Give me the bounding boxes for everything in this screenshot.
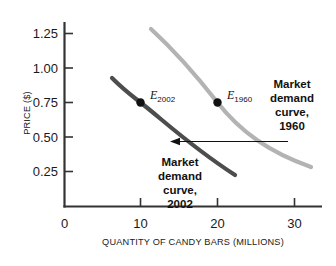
equilibrium-point-1960: E1960 <box>213 88 252 107</box>
annotation-1960-line-1: Market <box>273 78 310 90</box>
shift-arrow-head <box>170 138 180 145</box>
x-axis-tick-labels: 0 10 20 30 <box>61 216 302 231</box>
equilibrium-dot-2002 <box>136 98 144 106</box>
annotation-1960-line-4: 1960 <box>279 120 305 132</box>
x-axis-title: QUANTITY OF CANDY BARS (MILLIONS) <box>102 237 284 247</box>
equilibrium-label-2002: E2002 <box>149 88 176 104</box>
annotation-1960: Market demand curve, 1960 <box>270 78 314 132</box>
equilibrium-label-1960-sub: 1960 <box>234 95 252 104</box>
x-axis-ticks <box>141 198 295 207</box>
y-axis-title: PRICE ($) <box>22 91 32 135</box>
y-tick-label-075: 0.75 <box>33 95 58 110</box>
x-tick-label-30: 30 <box>287 216 301 231</box>
y-axis-ticks <box>65 34 74 172</box>
y-tick-label-100: 1.00 <box>33 61 58 76</box>
annotation-2002-line-4: 2002 <box>167 198 193 210</box>
annotation-1960-line-2: demand <box>270 92 314 104</box>
annotation-2002-line-1: Market <box>161 156 198 168</box>
annotation-2002-line-2: demand <box>158 170 202 182</box>
annotation-2002-line-3: curve, <box>163 184 197 196</box>
y-tick-label-125: 1.25 <box>33 26 58 41</box>
equilibrium-label-1960: E1960 <box>226 88 253 104</box>
annotation-2002: Market demand curve, 2002 <box>158 156 202 210</box>
demand-curve-chart: 1.25 1.00 0.75 0.50 0.25 0 10 20 30 QUAN… <box>0 0 336 266</box>
y-tick-label-050: 0.50 <box>33 130 58 145</box>
y-tick-label-025: 0.25 <box>33 164 58 179</box>
equilibrium-dot-1960 <box>213 98 221 106</box>
equilibrium-label-2002-sub: 2002 <box>157 95 175 104</box>
annotation-1960-line-3: curve, <box>275 106 309 118</box>
x-tick-label-20: 20 <box>210 216 224 231</box>
y-axis-tick-labels: 1.25 1.00 0.75 0.50 0.25 <box>33 26 58 179</box>
equilibrium-point-2002: E2002 <box>136 88 175 107</box>
x-tick-label-10: 10 <box>133 216 147 231</box>
chart-figure: 1.25 1.00 0.75 0.50 0.25 0 10 20 30 QUAN… <box>0 0 336 266</box>
x-tick-label-0: 0 <box>61 216 68 231</box>
